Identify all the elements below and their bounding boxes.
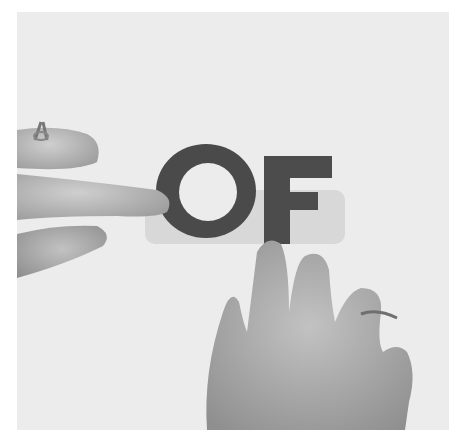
- left-hand: [17, 122, 169, 278]
- right-hand: [206, 240, 412, 430]
- letter-o: [156, 144, 256, 238]
- photograph: [17, 12, 449, 430]
- photo-scene: [17, 12, 449, 430]
